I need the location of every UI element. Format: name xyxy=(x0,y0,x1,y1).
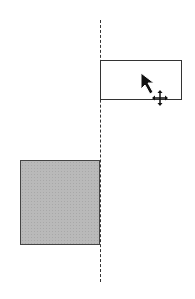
arrow-pointer-icon xyxy=(141,73,154,94)
move-icon xyxy=(152,90,168,106)
diagram-canvas xyxy=(0,0,195,299)
filled-gray-square[interactable] xyxy=(20,160,100,245)
move-cursor-icon xyxy=(136,70,170,108)
